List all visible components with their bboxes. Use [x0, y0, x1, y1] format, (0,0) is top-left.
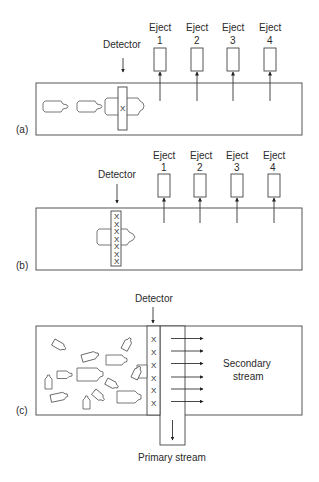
detector-mark: X: [120, 104, 126, 113]
eject-number: 4: [267, 35, 273, 46]
detector-label-c: Detector: [135, 293, 173, 304]
secondary-stream-label-line1: Secondary: [223, 358, 271, 369]
detector-mark: X: [151, 374, 157, 383]
eject-title: Eject: [149, 22, 171, 33]
secondary-stream-label-line2: stream: [233, 371, 264, 382]
ejector-box: [154, 48, 166, 71]
ejector-box: [158, 174, 170, 197]
panel-label-c: (c): [16, 405, 28, 416]
panel-b: (b) Detector Eject 1 Eject 2 Eject 3: [16, 150, 302, 271]
detector-mark: X: [151, 361, 157, 370]
eject-number: 3: [230, 35, 236, 46]
ejector-box: [227, 48, 239, 71]
eject-title: Eject: [222, 22, 244, 33]
eject-number: 2: [197, 162, 203, 173]
eject-number: 3: [234, 162, 240, 173]
ejector-box: [268, 174, 280, 197]
eject-title: Eject: [190, 150, 212, 161]
detector-mark: X: [151, 386, 157, 395]
panel-c: (c) Detector Primary stream X X X X X X …: [16, 293, 302, 463]
eject-title: Eject: [263, 150, 285, 161]
eject-title: Eject: [226, 150, 248, 161]
panel-label-b: (b): [16, 260, 28, 271]
detector-label-b: Detector: [98, 169, 136, 180]
panel-label-a: (a): [16, 124, 28, 135]
detector-mark: X: [151, 399, 157, 408]
detector-mark: X: [151, 348, 157, 357]
sorting-diagram: (a) Detector Eject 1 Eject 2 Eject 3: [0, 0, 319, 482]
eject-number: 2: [194, 35, 200, 46]
eject-number: 4: [270, 162, 276, 173]
conveyor-b: [36, 208, 302, 270]
panel-a: (a) Detector Eject 1 Eject 2 Eject 3: [16, 22, 302, 135]
detector-mark: X: [151, 335, 157, 344]
primary-stream-label: Primary stream: [138, 452, 206, 463]
ejector-box: [231, 174, 243, 197]
ejector-box: [194, 174, 206, 197]
detector-mark: X: [114, 257, 120, 266]
eject-title: Eject: [186, 22, 208, 33]
eject-number: 1: [157, 35, 163, 46]
eject-title: Eject: [259, 22, 281, 33]
detector-label-a: Detector: [103, 39, 141, 50]
detector-marks-b: X X X X X X X: [114, 212, 120, 266]
conveyor-a: [36, 83, 302, 135]
ejector-box: [264, 48, 276, 71]
eject-title: Eject: [153, 150, 175, 161]
eject-number: 1: [161, 162, 167, 173]
ejector-box: [191, 48, 203, 71]
